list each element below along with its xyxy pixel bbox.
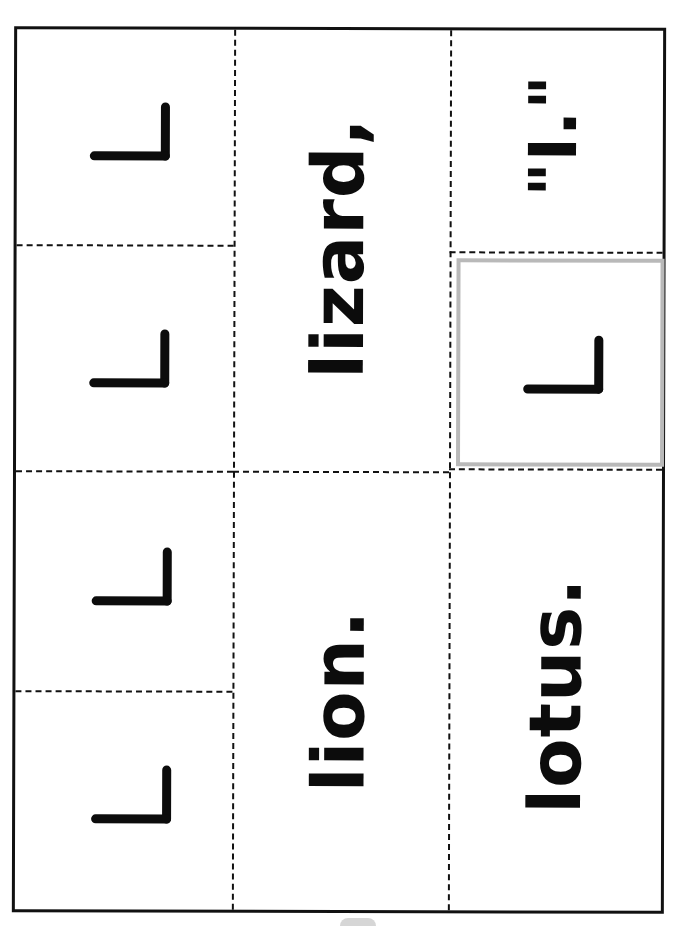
letter-l-icon xyxy=(523,335,603,393)
card-left-1[interactable] xyxy=(17,29,235,245)
card-quote-i[interactable]: "I." xyxy=(451,30,664,252)
card-word-lotus[interactable]: lotus. xyxy=(449,469,662,911)
letter-l-icon xyxy=(91,765,171,823)
letter-l-icon xyxy=(89,102,169,160)
card-left-4[interactable] xyxy=(15,691,233,910)
card-word-lion[interactable]: lion. xyxy=(233,472,449,911)
card-left-2[interactable] xyxy=(16,245,234,471)
word-text: lion. xyxy=(303,610,375,793)
letter-l-icon xyxy=(89,329,169,387)
worksheet-card-sheet: lizard, lion. "I." lotus. xyxy=(12,26,666,914)
word-text: "I." xyxy=(521,74,587,197)
card-left-3[interactable] xyxy=(15,471,233,691)
letter-l-icon xyxy=(91,547,171,605)
card-right-letter-selected[interactable] xyxy=(456,258,665,467)
word-text: lotus. xyxy=(519,577,592,813)
word-text: lizard, xyxy=(302,117,375,378)
card-word-lizard[interactable]: lizard, xyxy=(234,30,450,472)
page-edge-mark xyxy=(340,918,376,926)
